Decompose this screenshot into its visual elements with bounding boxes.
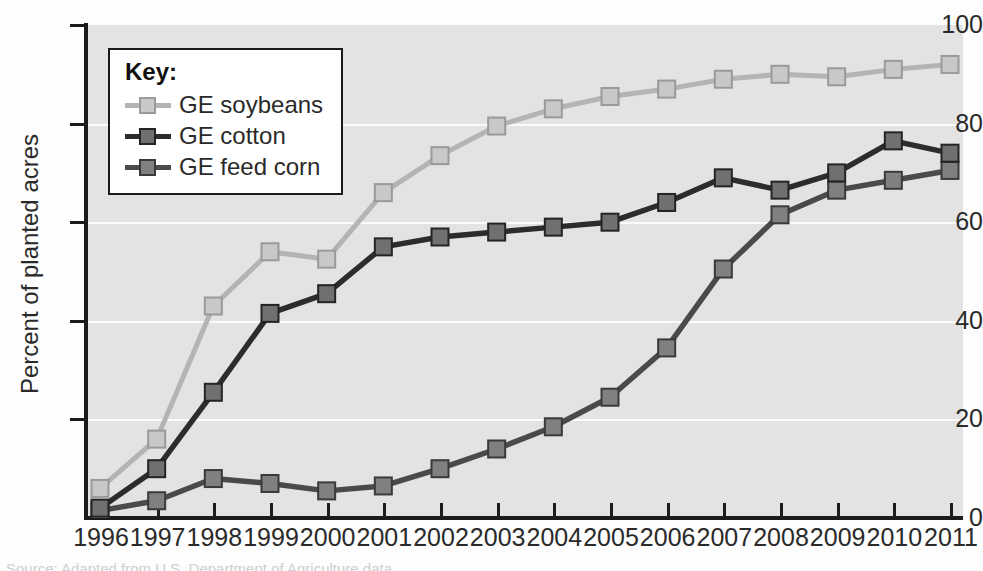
y-tick-40: [70, 320, 86, 323]
data-point-marker: [432, 147, 449, 164]
legend-swatch-icon: [125, 125, 171, 147]
data-point-marker: [432, 460, 449, 477]
data-point-marker: [262, 305, 279, 322]
data-point-marker: [375, 184, 392, 201]
data-point-marker: [602, 389, 619, 406]
legend-label: GE feed corn: [179, 155, 320, 179]
legend-label: GE cotton: [179, 124, 286, 148]
data-point-marker: [545, 100, 562, 117]
x-tick-label-2011: 2011: [916, 525, 983, 550]
legend-label: GE soybeans: [179, 93, 323, 117]
data-point-marker: [545, 219, 562, 236]
data-point-marker: [205, 298, 222, 315]
data-point-marker: [772, 182, 789, 199]
data-point-marker: [488, 440, 505, 457]
data-point-marker: [92, 500, 109, 517]
data-point-marker: [885, 172, 902, 189]
data-point-marker: [375, 238, 392, 255]
series-line: [100, 170, 950, 510]
y-tick-80: [70, 123, 86, 126]
y-tick-20: [70, 418, 86, 421]
data-point-marker: [715, 71, 732, 88]
data-point-marker: [148, 492, 165, 509]
data-point-marker: [828, 164, 845, 181]
data-point-marker: [885, 132, 902, 149]
data-point-marker: [658, 339, 675, 356]
data-point-marker: [205, 384, 222, 401]
data-point-marker: [318, 482, 335, 499]
data-point-marker: [772, 206, 789, 223]
legend-item-ge-feed-corn: GE feed corn: [125, 151, 323, 182]
data-point-marker: [658, 194, 675, 211]
data-point-marker: [772, 66, 789, 83]
chart-figure: 100 80 60 40 20 0 Percent of planted acr…: [0, 0, 983, 571]
legend-rows: GE soybeansGE cottonGE feed corn: [125, 89, 323, 182]
data-point-marker: [942, 145, 959, 162]
data-point-marker: [602, 88, 619, 105]
data-point-marker: [715, 261, 732, 278]
data-point-marker: [262, 243, 279, 260]
data-point-marker: [205, 470, 222, 487]
y-axis-title: Percent of planted acres: [16, 34, 44, 494]
y-tick-100: [70, 24, 86, 27]
data-point-marker: [942, 162, 959, 179]
data-point-marker: [658, 81, 675, 98]
legend-swatch-icon: [125, 94, 171, 116]
data-point-marker: [92, 480, 109, 497]
data-point-marker: [942, 56, 959, 73]
data-point-marker: [375, 477, 392, 494]
data-point-marker: [148, 431, 165, 448]
data-point-marker: [828, 182, 845, 199]
legend-swatch-icon: [125, 156, 171, 178]
data-point-marker: [885, 61, 902, 78]
legend-item-ge-cotton: GE cotton: [125, 120, 323, 151]
data-point-marker: [318, 251, 335, 268]
y-tick-60: [70, 221, 86, 224]
series-ge-feed-corn: [92, 162, 959, 518]
data-point-marker: [828, 68, 845, 85]
data-point-marker: [545, 418, 562, 435]
data-point-marker: [488, 118, 505, 135]
legend-title: Key:: [125, 59, 323, 85]
data-point-marker: [715, 169, 732, 186]
data-point-marker: [262, 475, 279, 492]
legend: Key: GE soybeansGE cottonGE feed corn: [108, 48, 343, 195]
data-point-marker: [432, 228, 449, 245]
data-point-marker: [318, 285, 335, 302]
data-point-marker: [488, 224, 505, 241]
legend-item-ge-soybeans: GE soybeans: [125, 89, 323, 120]
source-caption: Source: Adapted from U.S. Department of …: [6, 560, 392, 571]
data-point-marker: [602, 214, 619, 231]
data-point-marker: [148, 460, 165, 477]
